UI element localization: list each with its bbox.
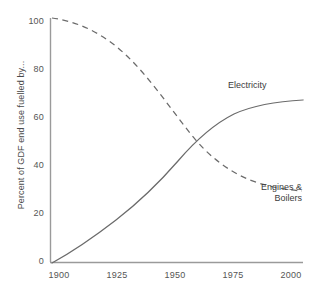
series-label-engines-line1: Engines & <box>261 182 302 192</box>
chart-plot-area <box>0 0 318 294</box>
x-tick-label-2000: 2000 <box>269 270 313 280</box>
series-label-engines-line2: Boilers <box>274 193 302 203</box>
x-tick-label-1925: 1925 <box>95 270 139 280</box>
y-tick-label-0: 0 <box>0 256 44 266</box>
y-tick-label-100: 100 <box>0 16 44 26</box>
series-label-electricity: Electricity <box>228 80 267 91</box>
y-tick-label-60: 60 <box>0 112 44 122</box>
series-label-engines-boilers: Engines & Boilers <box>214 182 302 204</box>
y-tick-label-40: 40 <box>0 160 44 170</box>
x-tick-label-1950: 1950 <box>153 270 197 280</box>
y-tick-label-20: 20 <box>0 208 44 218</box>
y-tick-label-80: 80 <box>0 64 44 74</box>
x-tick-label-1975: 1975 <box>211 270 255 280</box>
chart-container: Percent of GDF end use fuelled by... 100… <box>0 0 318 294</box>
x-tick-label-1900: 1900 <box>37 270 81 280</box>
